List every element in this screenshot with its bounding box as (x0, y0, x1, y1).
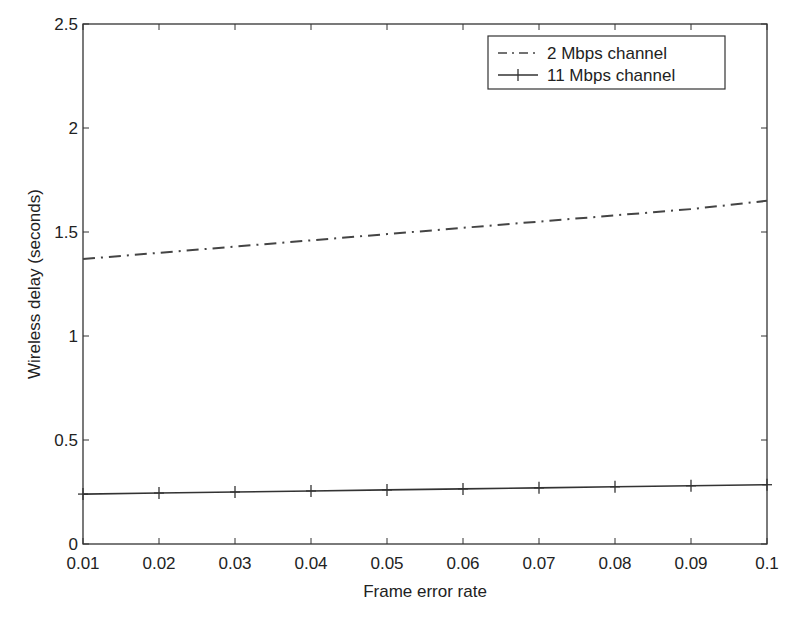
x-tick-label: 0.1 (755, 554, 779, 573)
plot-frame (83, 24, 767, 544)
x-tick-label: 0.06 (446, 554, 479, 573)
x-tick-label: 0.09 (674, 554, 707, 573)
line-chart: 0.010.020.030.040.050.060.070.080.090.10… (0, 0, 796, 622)
x-tick-label: 0.04 (294, 554, 327, 573)
series-2mbps-line (83, 201, 767, 259)
x-tick-label: 0.05 (370, 554, 403, 573)
legend-label-2mbps: 2 Mbps channel (547, 44, 667, 63)
y-tick-label: 1.5 (54, 223, 78, 242)
y-axis-label: Wireless delay (seconds) (25, 189, 44, 379)
x-tick-label: 0.08 (598, 554, 631, 573)
y-tick-label: 2.5 (54, 15, 78, 34)
x-tick-label: 0.02 (142, 554, 175, 573)
y-tick-label: 1 (69, 327, 78, 346)
y-tick-label: 2 (69, 119, 78, 138)
x-axis-label: Frame error rate (363, 582, 487, 601)
series-11mbps-line (83, 485, 767, 494)
y-tick-label: 0.5 (54, 431, 78, 450)
y-tick-label: 0 (69, 535, 78, 554)
x-tick-label: 0.01 (66, 554, 99, 573)
legend-label-11mbps: 11 Mbps channel (547, 66, 675, 85)
x-tick-label: 0.03 (218, 554, 251, 573)
x-tick-label: 0.07 (522, 554, 555, 573)
